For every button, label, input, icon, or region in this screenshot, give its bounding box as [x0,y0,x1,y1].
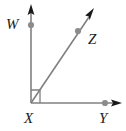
point-label-w: W [6,17,19,32]
point-z-dot [75,28,81,34]
point-w-dot [28,22,34,28]
point-y-dot [102,100,108,106]
geometry-diagram: W Z X Y [0,0,126,131]
point-label-z: Z [88,32,96,47]
ray-xz-arrowhead-icon [85,8,94,20]
point-label-y: Y [99,111,107,126]
point-label-x: X [24,111,33,126]
